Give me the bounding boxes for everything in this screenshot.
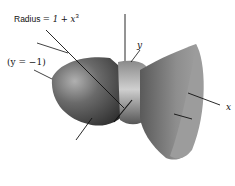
y-axis-label: y [137,40,142,50]
axis-line-leader [34,70,52,79]
axis-leader-top [37,43,68,53]
axis-of-rotation-label: (y = −1) [7,57,46,67]
radius-label-prefix: Radius [14,14,40,24]
radius-formula: = 1 + x [43,14,76,24]
radius-exponent: 3 [75,13,78,19]
left-bulb-surface [52,57,128,125]
solid-of-revolution-figure [0,0,235,186]
radius-label: Radius = 1 + x3 [14,13,79,24]
y-label-leader [131,50,140,62]
x-axis-label: x [226,102,231,112]
